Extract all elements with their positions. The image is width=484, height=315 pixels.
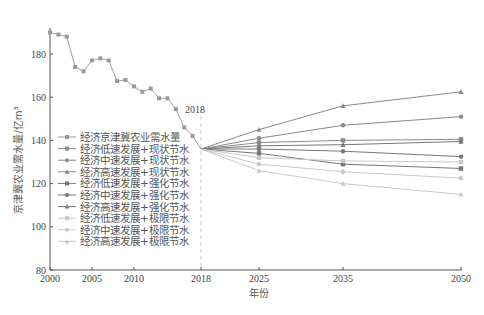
legend-item: 经济高速发展+现状节水 <box>58 166 190 178</box>
x-tick-label: 2050 <box>451 273 471 284</box>
legend-label: 经济中速发展+强化节水 <box>80 189 190 201</box>
legend-label: 经济中速发展+现状节水 <box>80 154 190 166</box>
series-projection <box>201 114 463 149</box>
legend-item: 经济高速发展+极限节水 <box>58 235 190 247</box>
legend-label: 经济高速发展+强化节水 <box>80 201 190 213</box>
water-demand-chart: 8010012014016018020002005201020182025203… <box>0 0 484 315</box>
legend-label: 经济低速发展+极限节水 <box>80 212 190 224</box>
y-tick-label: 140 <box>31 135 46 146</box>
x-tick-label: 2025 <box>249 273 269 284</box>
y-tick-label: 120 <box>31 178 46 189</box>
legend-item: 经济中速发展+极限节水 <box>58 224 190 236</box>
y-tick-label: 160 <box>31 92 46 103</box>
legend-item: 经济中速发展+强化节水 <box>58 189 190 201</box>
x-tick-label: 2035 <box>333 273 353 284</box>
y-tick-label: 100 <box>31 221 46 232</box>
series-projection <box>201 149 464 197</box>
x-tick-label: 2010 <box>124 273 144 284</box>
legend-label: 经济高速发展+极限节水 <box>80 235 190 247</box>
legend-label: 经济低速发展+现状节水 <box>80 143 190 155</box>
svg-text:2018: 2018 <box>185 104 205 115</box>
y-tick-label: 180 <box>31 49 46 60</box>
y-axis-title: 京津冀农业需水量/亿m³ <box>12 106 24 213</box>
legend-item: 经济低速发展+现状节水 <box>58 143 190 155</box>
legend-item: 经济中速发展+现状节水 <box>58 154 190 166</box>
legend-label: 经济京津冀农业需水量 <box>80 131 181 143</box>
legend-item: 经济低速发展+极限节水 <box>58 212 190 224</box>
legend: 经济京津冀农业需水量经济低速发展+现状节水经济中速发展+现状节水经济高速发展+现… <box>58 131 190 247</box>
legend-label: 经济高速发展+现状节水 <box>80 166 190 178</box>
legend-item: 经济低速发展+强化节水 <box>58 177 190 189</box>
legend-label: 经济中速发展+极限节水 <box>80 224 190 236</box>
legend-item: 经济京津冀农业需水量 <box>58 131 181 143</box>
legend-item: 经济高速发展+强化节水 <box>58 201 190 213</box>
x-tick-label: 2018 <box>191 273 211 284</box>
series-projection <box>201 149 463 180</box>
series-projection <box>201 147 463 159</box>
x-tick-label: 2000 <box>40 273 60 284</box>
x-tick-label: 2005 <box>82 273 102 284</box>
series-projection <box>201 149 463 171</box>
x-axis-title: 年份 <box>249 287 269 299</box>
legend-label: 经济低速发展+强化节水 <box>80 177 190 189</box>
